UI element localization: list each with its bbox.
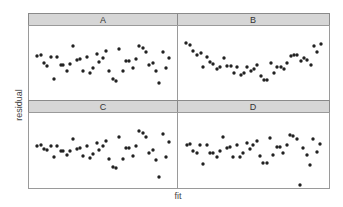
data-point-b (205, 55, 208, 58)
data-point-d (241, 151, 244, 154)
data-point-a (45, 64, 48, 67)
data-point-c (61, 149, 64, 152)
data-point-a (65, 69, 68, 72)
data-point-b (232, 71, 235, 74)
data-point-d (281, 151, 284, 154)
data-point-d (218, 149, 221, 152)
data-point-d (291, 134, 294, 137)
data-point-c (167, 140, 170, 143)
x-axis-label: fit (174, 191, 182, 201)
data-point-d (211, 151, 214, 154)
strip-label-c: C (100, 102, 107, 112)
data-point-d (235, 143, 238, 146)
data-point-a (39, 53, 42, 56)
data-point-c (65, 153, 68, 156)
data-point-a (55, 55, 58, 58)
data-point-c (81, 154, 84, 157)
data-point-d (295, 137, 298, 140)
data-point-b (299, 59, 302, 62)
data-point-c (97, 148, 100, 151)
data-point-d (248, 147, 251, 150)
data-point-d (278, 145, 281, 148)
data-point-a (68, 62, 71, 65)
data-point-d (285, 143, 288, 146)
data-point-c (147, 151, 150, 154)
data-point-b (199, 51, 202, 54)
data-point-b (225, 64, 228, 67)
data-point-a (52, 77, 55, 80)
data-point-a (107, 69, 110, 72)
data-point-d (188, 142, 191, 145)
data-point-c (52, 155, 55, 158)
data-point-b (312, 44, 315, 47)
data-point-a (157, 81, 160, 84)
data-point-b (289, 54, 292, 57)
data-point-d (268, 136, 271, 139)
data-point-a (111, 77, 114, 80)
data-point-c (101, 144, 104, 147)
data-point-a (81, 69, 84, 72)
data-point-c (35, 144, 38, 147)
data-point-d (231, 155, 234, 158)
data-point-a (91, 66, 94, 69)
data-point-d (265, 161, 268, 164)
data-point-c (151, 148, 154, 151)
data-point-a (114, 79, 117, 82)
data-point-a (134, 57, 137, 60)
data-point-a (71, 44, 74, 47)
data-point-a (61, 63, 64, 66)
data-point-d (195, 151, 198, 154)
data-point-d (228, 145, 231, 148)
data-point-a (78, 57, 81, 60)
data-point-b (292, 53, 295, 56)
data-point-c (68, 149, 71, 152)
data-point-d (275, 145, 278, 148)
data-point-b (195, 53, 198, 56)
data-point-c (91, 152, 94, 155)
data-point-c (88, 156, 91, 159)
data-point-b (279, 65, 282, 68)
data-point-d (221, 135, 224, 138)
data-point-b (319, 42, 322, 45)
data-point-b (295, 53, 298, 56)
data-point-c (75, 147, 78, 150)
data-point-a (127, 59, 130, 62)
data-point-c (42, 147, 45, 150)
data-point-d (205, 143, 208, 146)
data-point-b (242, 71, 245, 74)
data-point-c (45, 148, 48, 151)
strip-label-a: A (100, 15, 106, 25)
data-point-b (245, 65, 248, 68)
data-point-d (305, 153, 308, 156)
data-point-d (201, 162, 204, 165)
data-point-a (144, 50, 147, 53)
data-point-c (134, 144, 137, 147)
data-point-c (78, 146, 81, 149)
data-point-c (127, 146, 130, 149)
data-point-b (269, 61, 272, 64)
data-point-c (49, 144, 52, 147)
data-point-d (318, 142, 321, 145)
data-point-d (208, 151, 211, 154)
data-point-c (164, 155, 167, 158)
data-point-d (261, 161, 264, 164)
data-point-c (111, 165, 114, 168)
data-point-a (49, 55, 52, 58)
data-point-a (151, 61, 154, 64)
data-point-b (252, 67, 255, 70)
data-point-b (255, 63, 258, 66)
data-point-d (258, 154, 261, 157)
data-point-d (191, 149, 194, 152)
data-point-a (147, 63, 150, 66)
data-point-c (121, 157, 124, 160)
data-point-d (255, 139, 258, 142)
data-point-a (141, 46, 144, 49)
y-axis-label: residual (14, 89, 24, 121)
data-point-b (208, 60, 211, 63)
data-point-a (167, 56, 170, 59)
data-point-a (42, 61, 45, 64)
data-point-b (184, 41, 187, 44)
data-point-b (275, 65, 278, 68)
data-point-d (251, 143, 254, 146)
data-point-b (222, 56, 225, 59)
